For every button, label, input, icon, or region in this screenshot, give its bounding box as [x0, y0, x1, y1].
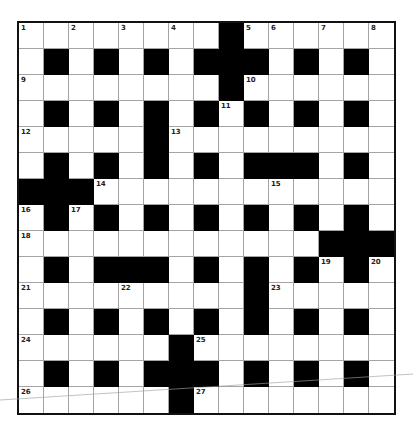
answer-cell[interactable] — [19, 257, 44, 283]
answer-cell[interactable]: 13 — [169, 127, 194, 153]
answer-cell[interactable] — [144, 23, 169, 49]
answer-cell[interactable]: 1 — [19, 23, 44, 49]
answer-cell[interactable] — [319, 361, 344, 387]
answer-cell[interactable] — [69, 335, 94, 361]
answer-cell[interactable] — [19, 49, 44, 75]
answer-cell[interactable] — [269, 309, 294, 335]
answer-cell[interactable] — [144, 283, 169, 309]
answer-cell[interactable] — [69, 101, 94, 127]
answer-cell[interactable] — [69, 387, 94, 413]
answer-cell[interactable] — [344, 127, 369, 153]
answer-cell[interactable]: 11 — [219, 101, 244, 127]
answer-cell[interactable] — [119, 153, 144, 179]
answer-cell[interactable] — [69, 283, 94, 309]
answer-cell[interactable] — [219, 179, 244, 205]
answer-cell[interactable] — [319, 387, 344, 413]
answer-cell[interactable] — [194, 179, 219, 205]
answer-cell[interactable] — [319, 127, 344, 153]
answer-cell[interactable]: 16 — [19, 205, 44, 231]
answer-cell[interactable]: 6 — [269, 23, 294, 49]
answer-cell[interactable] — [369, 335, 394, 361]
answer-cell[interactable] — [219, 361, 244, 387]
answer-cell[interactable] — [369, 75, 394, 101]
answer-cell[interactable] — [94, 127, 119, 153]
answer-cell[interactable] — [19, 309, 44, 335]
answer-cell[interactable]: 3 — [119, 23, 144, 49]
answer-cell[interactable] — [319, 283, 344, 309]
answer-cell[interactable] — [219, 205, 244, 231]
answer-cell[interactable]: 18 — [19, 231, 44, 257]
answer-cell[interactable] — [369, 283, 394, 309]
answer-cell[interactable] — [319, 75, 344, 101]
answer-cell[interactable] — [219, 231, 244, 257]
answer-cell[interactable] — [119, 49, 144, 75]
answer-cell[interactable] — [319, 335, 344, 361]
answer-cell[interactable] — [169, 231, 194, 257]
answer-cell[interactable] — [169, 283, 194, 309]
answer-cell[interactable] — [194, 23, 219, 49]
answer-cell[interactable] — [194, 127, 219, 153]
answer-cell[interactable] — [69, 361, 94, 387]
answer-cell[interactable] — [269, 361, 294, 387]
answer-cell[interactable]: 4 — [169, 23, 194, 49]
answer-cell[interactable] — [69, 127, 94, 153]
answer-cell[interactable]: 2 — [69, 23, 94, 49]
answer-cell[interactable] — [294, 23, 319, 49]
answer-cell[interactable] — [169, 153, 194, 179]
answer-cell[interactable] — [369, 387, 394, 413]
answer-cell[interactable] — [269, 127, 294, 153]
answer-cell[interactable] — [44, 387, 69, 413]
answer-cell[interactable] — [219, 309, 244, 335]
answer-cell[interactable] — [44, 231, 69, 257]
answer-cell[interactable] — [44, 283, 69, 309]
answer-cell[interactable] — [244, 387, 269, 413]
answer-cell[interactable] — [44, 127, 69, 153]
answer-cell[interactable] — [144, 75, 169, 101]
answer-cell[interactable] — [119, 127, 144, 153]
answer-cell[interactable] — [294, 179, 319, 205]
answer-cell[interactable] — [269, 231, 294, 257]
answer-cell[interactable] — [244, 231, 269, 257]
answer-cell[interactable] — [269, 335, 294, 361]
answer-cell[interactable] — [294, 283, 319, 309]
answer-cell[interactable] — [269, 101, 294, 127]
answer-cell[interactable] — [219, 387, 244, 413]
answer-cell[interactable] — [244, 127, 269, 153]
answer-cell[interactable] — [144, 179, 169, 205]
answer-cell[interactable]: 20 — [369, 257, 394, 283]
answer-cell[interactable] — [319, 205, 344, 231]
answer-cell[interactable] — [319, 309, 344, 335]
answer-cell[interactable] — [319, 101, 344, 127]
answer-cell[interactable] — [194, 283, 219, 309]
answer-cell[interactable] — [169, 257, 194, 283]
answer-cell[interactable] — [294, 75, 319, 101]
answer-cell[interactable] — [169, 49, 194, 75]
answer-cell[interactable] — [94, 23, 119, 49]
answer-cell[interactable] — [169, 101, 194, 127]
answer-cell[interactable]: 7 — [319, 23, 344, 49]
answer-cell[interactable] — [369, 205, 394, 231]
answer-cell[interactable] — [269, 75, 294, 101]
answer-cell[interactable]: 21 — [19, 283, 44, 309]
answer-cell[interactable] — [194, 231, 219, 257]
answer-cell[interactable] — [369, 309, 394, 335]
answer-cell[interactable] — [219, 153, 244, 179]
answer-cell[interactable] — [369, 127, 394, 153]
answer-cell[interactable] — [219, 335, 244, 361]
answer-cell[interactable] — [144, 387, 169, 413]
answer-cell[interactable] — [119, 361, 144, 387]
answer-cell[interactable] — [119, 205, 144, 231]
answer-cell[interactable]: 22 — [119, 283, 144, 309]
answer-cell[interactable] — [344, 179, 369, 205]
answer-cell[interactable] — [369, 153, 394, 179]
answer-cell[interactable]: 25 — [194, 335, 219, 361]
answer-cell[interactable] — [344, 75, 369, 101]
answer-cell[interactable]: 24 — [19, 335, 44, 361]
answer-cell[interactable]: 8 — [369, 23, 394, 49]
answer-cell[interactable] — [119, 101, 144, 127]
answer-cell[interactable] — [69, 309, 94, 335]
answer-cell[interactable] — [319, 49, 344, 75]
answer-cell[interactable] — [269, 49, 294, 75]
answer-cell[interactable] — [94, 335, 119, 361]
answer-cell[interactable] — [294, 231, 319, 257]
